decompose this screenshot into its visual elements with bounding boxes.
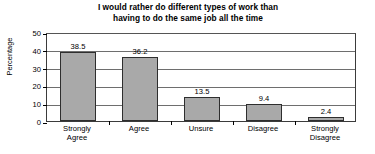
y-axis-tick [43, 51, 47, 52]
y-axis-tick-label: 40 [33, 48, 41, 56]
bar-value-label: 2.4 [321, 108, 332, 116]
bar: 13.5 [184, 97, 220, 121]
y-axis-tick-label: 0 [37, 119, 41, 127]
y-axis-tick [43, 105, 47, 106]
x-axis-category-label: Agree [108, 124, 170, 133]
x-axis-category-label: Disagree [232, 124, 294, 133]
bar-value-label: 36.2 [133, 48, 148, 56]
chart-title: I would rather do different types of wor… [48, 2, 328, 23]
y-axis-tick [43, 69, 47, 70]
bar: 36.2 [122, 57, 158, 121]
plot-area: 0102030405038.536.213.59.42.4 [46, 33, 356, 122]
x-axis-category-label: Strongly Agree [46, 124, 108, 143]
y-axis-tick [43, 87, 47, 88]
bar: 38.5 [60, 52, 96, 121]
bar: 2.4 [308, 117, 344, 121]
y-axis-tick-label: 30 [33, 66, 41, 74]
bar-value-label: 13.5 [195, 88, 210, 96]
bar: 9.4 [246, 104, 282, 121]
bar-value-label: 9.4 [259, 95, 270, 103]
y-axis-tick-label: 50 [33, 30, 41, 38]
y-axis-tick-label: 10 [33, 101, 41, 109]
x-axis-category-label: Unsure [170, 124, 232, 133]
bar-value-label: 38.5 [71, 43, 86, 51]
bar-chart: I would rather do different types of wor… [0, 0, 375, 154]
y-axis-tick-label: 20 [33, 84, 41, 92]
y-axis-tick [43, 34, 47, 35]
x-axis-category-label: Strongly Disagree [294, 124, 356, 143]
y-axis-title: Percentage [5, 22, 14, 92]
